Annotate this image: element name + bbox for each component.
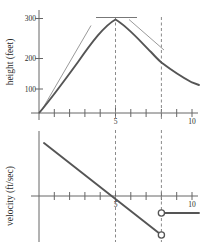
velocity-axis-label: velocity (ft/sec) bbox=[5, 166, 16, 226]
velocity-free-fall-line bbox=[44, 143, 161, 235]
height-curve bbox=[40, 20, 200, 113]
height-chart-panel: height (feet) 300 200 100 5 10 bbox=[5, 10, 199, 126]
height-xtick-label-10: 10 bbox=[188, 117, 196, 126]
height-ytick-100: 100 bbox=[25, 85, 37, 94]
tangent-on-rise bbox=[42, 26, 92, 111]
velocity-chart-panel: velocity (ft/sec) 5 10 bbox=[5, 130, 199, 242]
figure-container: height (feet) 300 200 100 5 10 bbox=[0, 0, 202, 246]
open-circle-lower bbox=[158, 232, 164, 238]
height-axis-label: height (feet) bbox=[5, 39, 16, 86]
velocity-xtick-label-10: 10 bbox=[188, 200, 196, 209]
two-panel-plot: height (feet) 300 200 100 5 10 bbox=[0, 0, 202, 246]
height-ytick-300: 300 bbox=[25, 14, 37, 23]
height-ytick-200: 200 bbox=[25, 54, 37, 63]
open-circle-upper bbox=[158, 210, 164, 216]
